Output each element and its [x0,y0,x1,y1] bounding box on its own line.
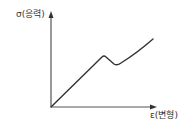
y-axis-label: σ(응력) [16,10,45,19]
diagram-canvas [0,0,186,127]
y-axis-arrow-icon [49,11,54,18]
x-axis-arrow-icon [150,105,157,110]
stress-strain-curve [51,39,153,107]
stress-strain-diagram: σ(응력) ε(변형) [0,0,186,127]
x-axis-label: ε(변형) [150,111,178,120]
